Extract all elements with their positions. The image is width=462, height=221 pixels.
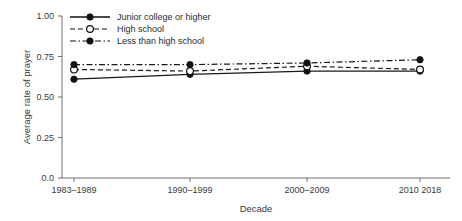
- x-tick-label: 2010 2018: [399, 185, 442, 195]
- chart-figure: 0.00.250.500.751.00 1983–19891990–199920…: [0, 0, 462, 221]
- legend-marker-2: [87, 38, 93, 44]
- y-axis-title: Average rate of prayer: [21, 50, 32, 144]
- x-axis-title: Decade: [240, 203, 273, 214]
- data-point-marker: [304, 60, 310, 66]
- x-tick-label: 1990–1999: [167, 185, 212, 195]
- series-line-2: [74, 60, 420, 65]
- data-point-marker: [417, 66, 424, 73]
- legend-label-1: High school: [117, 24, 164, 34]
- x-tick-label: 2000–2009: [284, 185, 329, 195]
- data-point-marker: [417, 57, 423, 63]
- data-point-marker: [187, 61, 193, 67]
- data-point-marker: [187, 68, 194, 75]
- chart-legend: Junior college or higherHigh schoolLess …: [70, 12, 211, 46]
- y-tick-label: 1.00: [36, 11, 54, 21]
- series-line-0: [74, 71, 420, 79]
- line-chart: 0.00.250.500.751.00 1983–19891990–199920…: [0, 0, 462, 221]
- series-line-1: [74, 66, 420, 71]
- legend-marker-1: [87, 26, 94, 33]
- x-tick-label: 1983–1989: [51, 185, 96, 195]
- series-layer: [71, 57, 424, 83]
- y-tick-label: 0.0: [41, 173, 54, 183]
- y-tick-label: 0.75: [36, 52, 54, 62]
- data-point-marker: [71, 76, 77, 82]
- y-tick-label: 0.25: [36, 133, 54, 143]
- y-axis-ticks: 0.00.250.500.751.00: [36, 11, 62, 183]
- legend-label-2: Less than high school: [117, 36, 204, 46]
- x-axis-ticks: 1983–19891990–19992000–20092010 2018: [51, 178, 441, 195]
- legend-label-0: Junior college or higher: [117, 12, 211, 22]
- y-tick-label: 0.50: [36, 92, 54, 102]
- legend-marker-0: [87, 14, 93, 20]
- data-point-marker: [71, 61, 77, 67]
